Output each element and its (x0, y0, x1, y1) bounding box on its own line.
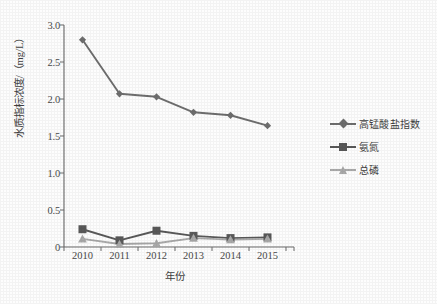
legend-item-label: 总磷 (359, 162, 379, 177)
y-tick-label: 2.0 (47, 94, 60, 105)
y-tick-label: 2.5 (47, 57, 60, 68)
chart-figure: 00.51.01.52.02.53.0 20102011201220132014… (0, 0, 437, 304)
legend-item-3[interactable]: 总磷 (330, 158, 434, 181)
chart-legend: 高锰酸盐指数氨氮总磷 (330, 112, 434, 181)
y-tick-label: 1.5 (47, 131, 60, 142)
y-axis-title: 水质指标浓度/（mg/L） (11, 6, 26, 166)
series-markers (78, 36, 272, 247)
axis-lines (64, 25, 294, 247)
series-lines (83, 40, 268, 244)
x-tick-label: 2012 (146, 250, 167, 261)
x-tick-label: 2011 (109, 250, 130, 261)
y-tick-label: 0 (55, 242, 60, 253)
legend-item-label: 高锰酸盐指数 (359, 116, 420, 131)
y-tick-label: 1.0 (47, 168, 60, 179)
x-tick-label: 2015 (257, 250, 278, 261)
x-axis-tick-labels: 201020112012201320142015 (64, 250, 286, 266)
legend-item-1[interactable]: 高锰酸盐指数 (330, 112, 434, 135)
legend-diamond-icon (330, 118, 356, 130)
legend-square-icon (330, 141, 356, 153)
x-tick-label: 2010 (72, 250, 93, 261)
x-tick-label: 2013 (183, 250, 204, 261)
y-tick-label: 3.0 (47, 20, 60, 31)
y-tick-label: 0.5 (47, 205, 60, 216)
x-axis-title: 年份 (64, 268, 286, 283)
legend-item-2[interactable]: 氨氮 (330, 135, 434, 158)
legend-item-label: 氨氮 (359, 139, 379, 154)
legend-triangle-icon (330, 164, 356, 176)
x-tick-label: 2014 (220, 250, 241, 261)
y-axis-tick-labels: 00.51.01.52.02.53.0 (26, 25, 60, 247)
